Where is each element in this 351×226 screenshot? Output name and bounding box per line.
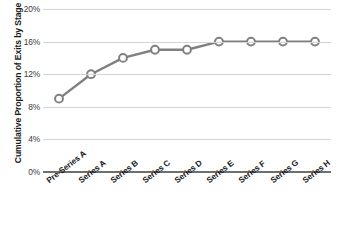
data-point-marker: Pre-Series A: 9% xyxy=(55,95,63,103)
series-line-and-markers: Pre-Series A: 9%Series A: 12%Series B: 1… xyxy=(43,9,331,172)
y-tick-label: 12% xyxy=(0,69,40,79)
data-point-marker: Series B: 14% xyxy=(119,54,127,62)
y-tick-label: 16% xyxy=(0,37,40,47)
gridline xyxy=(43,107,331,108)
gridline xyxy=(43,42,331,43)
y-tick-label: 4% xyxy=(0,134,40,144)
y-tick-label: 20% xyxy=(0,4,40,14)
line-chart: Cumulative Proportion of Exits by Stage … xyxy=(0,0,351,226)
plot-area: Pre-Series A: 9%Series A: 12%Series B: 1… xyxy=(43,9,331,172)
gridline xyxy=(43,74,331,75)
y-axis-tick-labels: 0%4%8%12%16%20% xyxy=(0,0,40,226)
data-point-marker: Series D: 15% xyxy=(183,46,191,54)
y-tick-label: 0% xyxy=(0,167,40,177)
gridline xyxy=(43,9,331,10)
gridline xyxy=(43,139,331,140)
y-tick-label: 8% xyxy=(0,102,40,112)
data-point-marker: Series C: 15% xyxy=(151,46,159,54)
x-axis-baseline xyxy=(43,171,331,173)
